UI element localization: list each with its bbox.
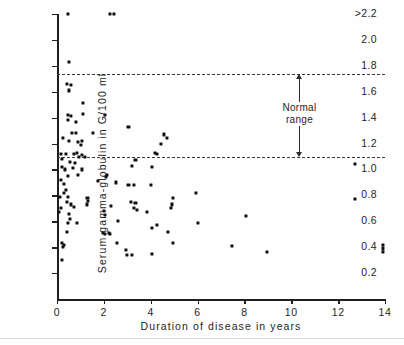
data-point (155, 224, 158, 227)
arrow-up-icon (296, 74, 302, 79)
y-tick-label: 1.4 (361, 111, 377, 123)
normal-range-label: Normal range (263, 102, 335, 126)
x-tick-label: 8 (241, 306, 247, 318)
data-point (196, 221, 199, 224)
data-point (76, 151, 79, 154)
data-point (244, 215, 247, 218)
data-point (66, 174, 69, 177)
data-point (75, 221, 78, 224)
data-point (116, 220, 119, 223)
data-point (115, 242, 118, 245)
data-point (114, 181, 117, 184)
data-point (156, 152, 159, 155)
x-tick-mark (104, 299, 105, 304)
data-point (72, 167, 75, 170)
data-point (136, 208, 139, 211)
data-point (92, 132, 95, 135)
y-tick-label: 0.4 (361, 240, 377, 252)
data-point (70, 132, 73, 135)
y-tick-label: >2.2 (355, 7, 377, 19)
data-point (64, 168, 67, 171)
data-point (353, 198, 356, 201)
data-point (133, 183, 136, 186)
data-point (82, 102, 85, 105)
data-point (60, 152, 63, 155)
data-point (126, 253, 129, 256)
data-point (61, 158, 64, 161)
data-point (66, 195, 69, 198)
data-point (68, 89, 71, 92)
x-tick-label: 4 (147, 306, 153, 318)
data-point (134, 159, 137, 162)
data-point (62, 246, 65, 249)
data-point (265, 251, 268, 254)
data-point (58, 195, 61, 198)
data-point (134, 202, 137, 205)
x-tick-mark (385, 299, 386, 304)
data-point (74, 161, 77, 164)
y-tick-label: 1.6 (361, 85, 377, 97)
data-point (68, 160, 71, 163)
y-tick-label: 0.2 (361, 266, 377, 278)
data-point (69, 84, 72, 87)
data-point (86, 199, 89, 202)
data-point (68, 217, 71, 220)
data-point (74, 132, 77, 135)
data-point (60, 165, 63, 168)
x-tick-mark (151, 299, 152, 304)
y-tick-label: 1.8 (361, 59, 377, 71)
data-point (150, 165, 153, 168)
y-tick-label: 2.0 (361, 33, 377, 45)
y-tick-mark (52, 118, 57, 119)
data-point (130, 253, 133, 256)
y-tick-mark (52, 144, 57, 145)
data-point (85, 203, 88, 206)
data-point (382, 247, 385, 250)
data-point (353, 163, 356, 166)
y-tick-mark (52, 247, 57, 248)
y-tick-mark (52, 66, 57, 67)
data-point (381, 243, 384, 246)
data-point (195, 191, 198, 194)
y-tick-mark (52, 92, 57, 93)
arrow-down-icon (296, 152, 302, 157)
data-point (108, 233, 111, 236)
data-point (150, 252, 153, 255)
y-tick-mark (52, 14, 57, 15)
data-point (129, 200, 132, 203)
data-point (67, 139, 70, 142)
data-point (109, 204, 112, 207)
x-tick-mark (291, 299, 292, 304)
data-point (167, 230, 170, 233)
data-point (58, 211, 61, 214)
x-tick-label: 6 (194, 306, 200, 318)
data-point (66, 12, 69, 15)
data-point (62, 182, 65, 185)
data-point (160, 142, 163, 145)
page-edge-artifact (0, 338, 404, 339)
data-point (65, 230, 68, 233)
data-point (130, 164, 133, 167)
data-point (150, 226, 153, 229)
normal-range-label-line2: range (286, 114, 313, 125)
data-point (68, 212, 71, 215)
y-tick-label: 1.0 (361, 162, 377, 174)
y-tick-label: 0.6 (361, 214, 377, 226)
data-point (60, 207, 63, 210)
data-point (70, 115, 73, 118)
data-point (75, 120, 78, 123)
x-tick-label: 14 (379, 306, 392, 318)
data-point (170, 203, 173, 206)
data-point (72, 205, 75, 208)
data-point (67, 119, 70, 122)
data-point (171, 242, 174, 245)
data-point (146, 211, 149, 214)
data-point (162, 133, 165, 136)
data-point (149, 183, 152, 186)
data-point (60, 259, 63, 262)
data-point (65, 82, 68, 85)
data-point (77, 173, 80, 176)
data-point (166, 137, 169, 140)
data-point (113, 12, 116, 15)
x-tick-label: 2 (101, 306, 107, 318)
